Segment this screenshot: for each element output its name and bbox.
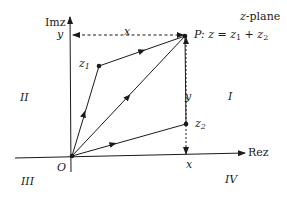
origin-label: O <box>57 162 66 173</box>
projection-label-y-left: y <box>57 29 63 40</box>
vector-z2 <box>72 124 186 156</box>
real-axis <box>15 153 245 158</box>
plane-title: zz-plane-plane <box>240 11 280 22</box>
point-label-z1: z1 <box>79 58 90 71</box>
complex-plane-diagram: zz-plane-plane Imz Rez O y x y x II I II… <box>0 0 287 199</box>
quadrant-label-iii: III <box>21 176 34 187</box>
point-z2 <box>184 122 189 127</box>
origin-point <box>70 154 75 159</box>
quadrant-label-i: I <box>228 91 232 102</box>
projection-label-x-top: x <box>124 26 130 37</box>
quadrant-label-iv: IV <box>225 174 237 185</box>
projection-label-y-right: y <box>185 91 191 102</box>
vector-z1 <box>72 66 99 156</box>
real-axis-label: Rez <box>248 147 269 158</box>
projection-label-x-bottom: x <box>186 159 192 170</box>
point-z1 <box>97 64 102 69</box>
point-label-p: P: z = z1 + z2 <box>194 29 268 42</box>
imaginary-axis-label: Imz <box>45 17 66 28</box>
point-label-z2: z2 <box>195 118 206 131</box>
point-p <box>183 34 188 39</box>
vector-sum <box>72 36 185 156</box>
imaginary-axis <box>70 17 71 172</box>
quadrant-label-ii: II <box>20 92 29 103</box>
